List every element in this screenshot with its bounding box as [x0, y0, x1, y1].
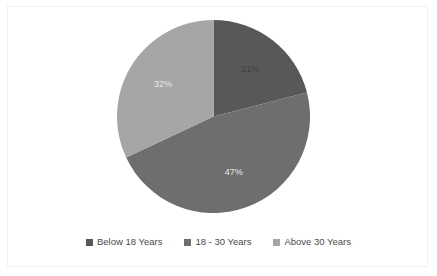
pie-label-above-30-years: 32% — [154, 79, 172, 89]
pie-chart-container: 21% 47% 32% Below 18 Years 18 - 30 Years… — [0, 0, 437, 276]
legend-label-above-30-years: Above 30 Years — [284, 237, 351, 247]
pie-label-below-18-years: 21% — [241, 64, 259, 74]
plot-area: 21% 47% 32% — [0, 0, 437, 230]
legend-item-above-30-years[interactable]: Above 30 Years — [273, 237, 351, 247]
legend-item-18-30-years[interactable]: 18 - 30 Years — [184, 237, 251, 247]
chart-legend: Below 18 Years 18 - 30 Years Above 30 Ye… — [0, 231, 437, 253]
legend-swatch-icon-18-30-years — [184, 239, 191, 246]
pie-slices — [117, 20, 310, 213]
legend-swatch-icon-above-30-years — [273, 239, 280, 246]
legend-label-18-30-years: 18 - 30 Years — [195, 237, 251, 247]
pie-label-18-30-years: 47% — [225, 167, 243, 177]
legend-item-below-18-years[interactable]: Below 18 Years — [86, 237, 163, 247]
legend-swatch-icon-below-18-years — [86, 239, 93, 246]
legend-label-below-18-years: Below 18 Years — [97, 237, 163, 247]
pie-chart[interactable]: 21% 47% 32% — [117, 20, 310, 213]
